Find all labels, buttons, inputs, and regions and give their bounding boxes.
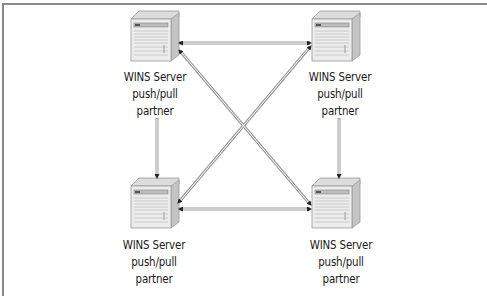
node-label-top-left: WINS Server push/pull partner [110, 68, 200, 119]
node-label-line: partner [110, 102, 200, 119]
server-icon-top-right [312, 11, 360, 61]
node-label-line: push/pull [109, 253, 199, 270]
server-icon-top-left [131, 11, 179, 61]
node-label-line: WINS Server [110, 68, 200, 85]
node-label-line: partner [295, 102, 385, 119]
replication-diagram [0, 0, 487, 296]
node-label-line: WINS Server [109, 236, 199, 253]
node-label-line: push/pull [296, 253, 386, 270]
node-label-bottom-left: WINS Server push/pull partner [109, 236, 199, 287]
node-label-top-right: WINS Server push/pull partner [295, 68, 385, 119]
node-label-line: partner [296, 270, 386, 287]
node-label-bottom-right: WINS Server push/pull partner [296, 236, 386, 287]
node-label-line: push/pull [295, 85, 385, 102]
server-icon-bottom-left [131, 178, 179, 228]
node-label-line: WINS Server [295, 68, 385, 85]
node-label-line: WINS Server [296, 236, 386, 253]
server-icon-bottom-right [312, 178, 360, 228]
node-label-line: partner [109, 270, 199, 287]
node-label-line: push/pull [110, 85, 200, 102]
